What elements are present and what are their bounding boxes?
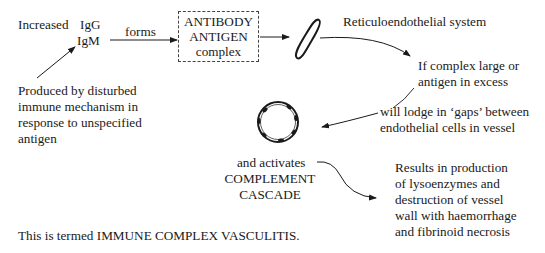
activates-label: and activates: [237, 155, 305, 170]
produced-line-1: Produced by disturbed: [18, 83, 137, 98]
complex-line-3: complex: [178, 44, 259, 59]
complex-line-1: ANTIBODY: [178, 14, 259, 29]
results-line-2: of lysoenzymes and: [395, 176, 500, 191]
complex-line-2: ANTIGEN: [178, 29, 259, 44]
lodge-line-1: will lodge in ‘gaps’ between: [380, 104, 529, 119]
condition-line-1: If complex large or: [418, 58, 519, 73]
igg-label: IgG: [80, 17, 101, 32]
produced-line-3: response to unspecified: [18, 115, 142, 130]
arrow-to-vessel: [322, 113, 378, 127]
results-line-1: Results in production: [395, 160, 508, 175]
results-line-5: and fibrinoid necrosis: [395, 224, 510, 239]
results-line-3: destruction of vessel: [395, 192, 503, 207]
increased-label: Increased: [18, 17, 69, 32]
cascade-label: CASCADE: [215, 187, 325, 202]
condition-line-2: antigen in excess: [418, 74, 508, 89]
complement-label: COMPLEMENT: [215, 171, 325, 186]
igm-label: IgM: [77, 33, 100, 48]
arrow-to-condition: [320, 37, 410, 56]
produced-line-4: antigen: [18, 131, 57, 146]
arrow-produced: [37, 47, 75, 78]
arrow-to-results: [317, 162, 376, 198]
results-line-4: wall with haemorrhage: [395, 208, 517, 223]
re-cell-icon: [296, 20, 320, 59]
re-system-label: Reticuloendothelial system: [343, 14, 486, 29]
vessel-cross-section-icon: [257, 102, 298, 142]
forms-label: forms: [125, 24, 156, 39]
produced-line-2: immune mechanism in: [18, 99, 138, 114]
lodge-line-2: endothelial cells in vessel: [380, 120, 515, 135]
conclusion-text: This is termed IMMUNE COMPLEX VASCULITIS…: [18, 228, 300, 243]
